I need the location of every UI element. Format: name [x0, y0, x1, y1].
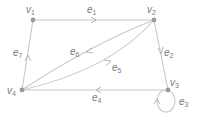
edge-label-e2: e2: [164, 47, 174, 59]
edge-label-e4: e4: [92, 92, 102, 104]
edge-e1: [33, 17, 154, 23]
edge-e6: [22, 20, 154, 90]
vertex-v3: [166, 88, 171, 93]
arrow-up-icon: [25, 55, 31, 61]
vertex-v4: [20, 88, 25, 93]
edge-label-e5: e5: [112, 62, 122, 74]
edge-e7: [22, 20, 33, 90]
vertex-v2: [152, 18, 157, 23]
edge-e5: [22, 20, 154, 90]
vertex-label-v2: v2: [147, 4, 156, 16]
vertex-label-v1: v1: [26, 4, 35, 16]
vertex-label-v4: v4: [7, 85, 16, 97]
edge-label-e7: e7: [13, 47, 23, 59]
arrow-up-right-icon: [104, 60, 111, 66]
directed-graph: v1 v2 v3 v4 e1 e2 e3 e4 e5 e6 e7: [0, 0, 200, 121]
vertex-v1: [31, 18, 36, 23]
edge-label-e1: e1: [87, 4, 97, 16]
vertex-label-v3: v3: [170, 77, 179, 89]
edge-label-e3: e3: [179, 96, 189, 108]
edge-e3: [154, 90, 175, 112]
edge-label-e6: e6: [70, 46, 80, 58]
